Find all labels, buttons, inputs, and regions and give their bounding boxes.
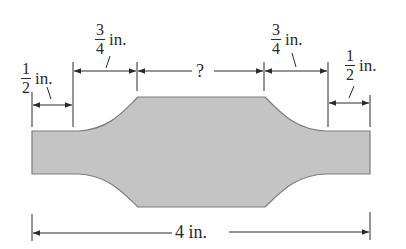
unit: in. <box>359 56 376 75</box>
numerator: 1 <box>345 48 355 66</box>
label-overall-length: 4 in. <box>172 223 210 241</box>
label-center-unknown: ? <box>193 62 207 80</box>
part-drawing <box>0 0 406 249</box>
denominator: 2 <box>346 66 354 83</box>
leader-right-end <box>349 86 354 98</box>
label-right-end: 1 2 in. <box>345 48 376 83</box>
unit: in. <box>109 30 126 49</box>
denominator: 4 <box>96 40 104 57</box>
fraction-left-taper: 3 4 <box>95 22 105 57</box>
unit: in. <box>285 30 302 49</box>
numerator: 1 <box>21 61 31 79</box>
denominator: 4 <box>272 40 280 57</box>
leader-left-taper <box>106 56 110 68</box>
center-value: ? <box>196 61 204 81</box>
label-left-end: 1 2 in. <box>21 61 52 96</box>
part-shape <box>32 97 370 207</box>
numerator: 3 <box>271 22 281 40</box>
fraction-right-taper: 3 4 <box>271 22 281 57</box>
numerator: 3 <box>95 22 105 40</box>
unit: in. <box>35 69 52 88</box>
label-right-taper: 3 4 in. <box>271 22 302 57</box>
label-left-taper: 3 4 in. <box>95 22 126 57</box>
fraction-right-end: 1 2 <box>345 48 355 83</box>
fraction-left-end: 1 2 <box>21 61 31 96</box>
overall-value: 4 in. <box>175 222 207 242</box>
denominator: 2 <box>22 79 30 96</box>
